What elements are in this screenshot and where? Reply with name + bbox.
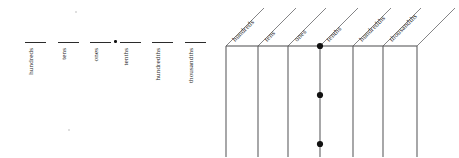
table-header-ones: ones — [293, 28, 308, 43]
table-header-thousandths: thousandths — [388, 12, 419, 43]
place-slot-label-ones: ones — [92, 48, 100, 61]
decimal-point-dot — [317, 92, 323, 98]
worksheet-canvas: hundreds tens ones tenths hundredths tho… — [0, 0, 459, 158]
right-place-value-table: hundreds tens ones tenths hundredths tho… — [225, 0, 459, 158]
slant-rule — [417, 8, 455, 46]
slanted-header-rules — [226, 8, 455, 46]
left-place-value-diagram: hundreds tens ones tenths hundredths tho… — [0, 0, 225, 158]
paper-speck — [68, 129, 70, 131]
decimal-point-marker — [114, 40, 117, 43]
decimal-point-dot — [317, 141, 323, 147]
answer-blank-line[interactable] — [152, 42, 173, 43]
place-slot-label-thousandths: thousandths — [187, 48, 195, 83]
table-header-tenths: tenths — [325, 25, 343, 43]
answer-blank-line[interactable] — [25, 42, 46, 43]
answer-blank-line[interactable] — [185, 42, 206, 43]
table-column-separators — [226, 46, 417, 157]
place-slot-label-tens: tens — [60, 48, 68, 60]
slant-rule — [288, 8, 326, 46]
table-header-tens: tens — [263, 29, 277, 43]
place-slot-label-tenths: tenths — [122, 48, 130, 66]
answer-blank-line[interactable] — [58, 42, 79, 43]
decimal-point-dot — [317, 43, 323, 49]
slant-rule — [258, 8, 296, 46]
table-header-hundredths: hundredths — [358, 14, 387, 43]
table-header-labels: hundreds tens ones tenths hundredths tho… — [231, 12, 419, 43]
place-slot-label-hundreds: hundreds — [27, 48, 35, 75]
answer-blank-line[interactable] — [90, 42, 111, 43]
place-slot-label-hundredths: hundredths — [154, 48, 162, 81]
answer-blank-line[interactable] — [120, 42, 141, 43]
paper-speck — [75, 11, 77, 13]
table-header-hundreds: hundreds — [231, 18, 256, 43]
